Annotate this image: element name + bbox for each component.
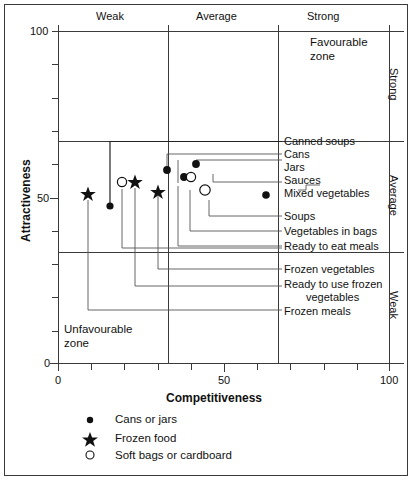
callout-cans: Cans bbox=[284, 148, 310, 161]
callout-ready-to-use-frozen-2: vegetables bbox=[306, 291, 359, 304]
point-soups bbox=[262, 191, 270, 199]
x-tick-label-50: 50 bbox=[218, 374, 230, 386]
point-cans bbox=[163, 166, 171, 174]
callout-sauces: Sauces bbox=[284, 174, 321, 187]
point-jars bbox=[192, 160, 200, 168]
band-label-top-strong: Strong bbox=[307, 10, 339, 22]
callout-canned-soups: Canned soups bbox=[284, 135, 355, 148]
y-tick-label-50: 50 bbox=[37, 192, 49, 204]
legend-star-icon bbox=[82, 432, 98, 447]
legend-filled-circle-icon bbox=[87, 417, 93, 423]
y-axis-title: Attractiveness bbox=[20, 159, 32, 242]
callout-frozen-meals: Frozen meals bbox=[284, 305, 351, 318]
y-tick-label-100: 100 bbox=[30, 25, 48, 37]
point-mixed-vegetables bbox=[117, 177, 126, 186]
band-label-right-average: Average bbox=[388, 175, 400, 216]
point-ready-to-use-frozen-vegetables bbox=[127, 175, 143, 189]
unfavourable-zone-line2: zone bbox=[64, 337, 132, 351]
favourable-zone-annotation: Favourable zone bbox=[310, 36, 368, 63]
band-label-right-strong: Strong bbox=[388, 68, 400, 100]
y-tick-label-0: 0 bbox=[44, 357, 50, 369]
callout-ready-to-use-frozen: Ready to use frozen bbox=[284, 278, 382, 291]
legend-markers bbox=[82, 417, 98, 459]
chart-root: Weak Average Strong Strong Average Weak … bbox=[0, 0, 414, 482]
band-label-right-weak: Weak bbox=[388, 291, 400, 319]
point-canned-soups bbox=[106, 202, 113, 209]
point-vegetables-in-bags bbox=[200, 185, 210, 195]
callout-ready-to-eat-meals: Ready to eat meals bbox=[284, 240, 379, 253]
data-points bbox=[80, 160, 270, 209]
callout-jars: Jars bbox=[284, 161, 305, 174]
point-ready-to-eat-meals bbox=[186, 172, 195, 181]
favourable-zone-line1: Favourable bbox=[310, 36, 368, 50]
x-axis-ticks bbox=[59, 364, 390, 373]
unfavourable-zone-annotation: Unfavourable zone bbox=[64, 323, 132, 350]
favourable-zone-line2: zone bbox=[310, 50, 368, 64]
x-tick-label-0: 0 bbox=[55, 374, 61, 386]
callout-soups: Soups bbox=[284, 210, 315, 223]
callout-mixed-vegetables: Mixed vegetables bbox=[284, 187, 370, 200]
legend-item-soft-bags-or-cardboard: Soft bags or cardboard bbox=[115, 449, 232, 461]
unfavourable-zone-line1: Unfavourable bbox=[64, 323, 132, 337]
callout-frozen-vegetables: Frozen vegetables bbox=[284, 263, 375, 276]
band-label-top-average: Average bbox=[196, 10, 237, 22]
legend-open-circle-icon bbox=[86, 451, 94, 459]
x-axis-title: Competitiveness bbox=[166, 392, 262, 404]
band-label-top-weak: Weak bbox=[96, 10, 124, 22]
legend-item-frozen-food: Frozen food bbox=[115, 432, 176, 444]
point-frozen-meals bbox=[80, 187, 96, 201]
x-tick-label-100: 100 bbox=[380, 374, 398, 386]
y-axis-ticks bbox=[50, 32, 59, 364]
legend-item-cans-or-jars: Cans or jars bbox=[115, 413, 177, 425]
callout-vegetables-in-bags: Vegetables in bags bbox=[284, 225, 377, 238]
